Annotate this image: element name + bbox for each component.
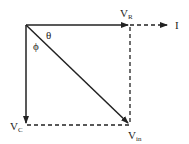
v-in-vector	[26, 25, 128, 123]
current-label: I	[175, 19, 179, 31]
theta-label: θ	[46, 29, 51, 41]
phasor-diagram: VR I VC Vin θ ϕ	[0, 0, 189, 144]
v-c-label: VC	[10, 120, 23, 134]
phi-label: ϕ	[33, 40, 39, 52]
v-r-label: VR	[120, 7, 133, 21]
v-in-label: Vin	[128, 129, 142, 143]
